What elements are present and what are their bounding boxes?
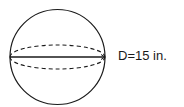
- equator-front-dashed: [10, 57, 105, 69]
- diameter-label: D=15 in.: [118, 48, 167, 64]
- equator-back-dashed: [10, 45, 105, 57]
